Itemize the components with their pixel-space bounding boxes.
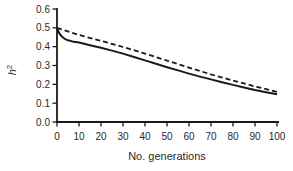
dashed-line (57, 28, 277, 92)
y-tick-label: 0.6 (36, 4, 50, 15)
x-tick-label: 90 (249, 131, 261, 142)
chart-axes: 01020304050607080901000.00.10.20.30.40.5… (36, 4, 286, 143)
y-tick-label: 0.5 (36, 22, 50, 33)
y-tick-label: 0.2 (36, 79, 50, 90)
x-tick-label: 0 (54, 131, 60, 142)
x-tick-label: 10 (73, 131, 85, 142)
x-tick-label: 80 (227, 131, 239, 142)
x-axis-title: No. generations (128, 150, 206, 162)
chart-series (57, 28, 277, 95)
y-axis-title: h2 (5, 64, 18, 75)
x-tick-label: 60 (183, 131, 195, 142)
y-tick-label: 0.1 (36, 98, 50, 109)
y-tick-label: 0.3 (36, 60, 50, 71)
heritability-line-chart: 01020304050607080901000.00.10.20.30.40.5… (0, 0, 293, 171)
x-tick-label: 100 (269, 131, 286, 142)
x-tick-label: 40 (139, 131, 151, 142)
x-tick-label: 20 (95, 131, 107, 142)
x-tick-label: 30 (117, 131, 129, 142)
y-tick-label: 0.0 (36, 117, 50, 128)
x-tick-label: 50 (161, 131, 173, 142)
y-tick-label: 0.4 (36, 41, 50, 52)
chart-figure: 01020304050607080901000.00.10.20.30.40.5… (0, 0, 293, 171)
x-tick-label: 70 (205, 131, 217, 142)
